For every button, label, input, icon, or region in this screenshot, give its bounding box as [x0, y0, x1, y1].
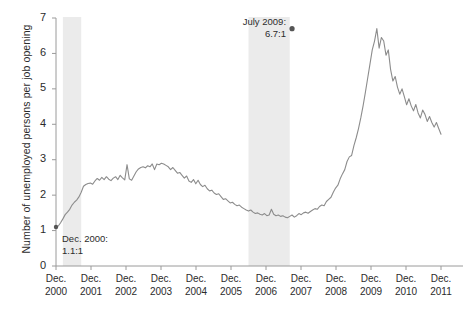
recession-band — [63, 17, 81, 266]
start-point-marker — [54, 225, 58, 229]
y-tick-label: 0 — [26, 259, 46, 271]
chart-container: Number of unemployed persons per job ope… — [0, 0, 468, 309]
x-tick-label: Dec.2011 — [419, 273, 463, 298]
y-tick-label: 2 — [26, 188, 46, 200]
start-point-annotation: Dec. 2000:1.1:1 — [62, 233, 108, 257]
recession-band — [249, 17, 290, 266]
chart-plot-area — [0, 0, 468, 309]
recession-bands — [63, 17, 290, 266]
annotation-line-2: 6.7:1 — [214, 28, 286, 40]
y-tick-label: 4 — [26, 117, 46, 129]
y-tick-label: 6 — [26, 46, 46, 58]
peak-point-marker — [289, 26, 294, 31]
x-tick-year: 2011 — [419, 286, 463, 299]
x-tick-month: Dec. — [419, 273, 463, 286]
peak-point-annotation: July 2009:6.7:1 — [214, 16, 286, 40]
annotation-line-1: July 2009: — [214, 16, 286, 28]
y-tick-label: 7 — [26, 11, 46, 23]
annotation-line-2: 1.1:1 — [62, 245, 108, 257]
annotation-line-1: Dec. 2000: — [62, 233, 108, 245]
y-tick-label: 5 — [26, 81, 46, 93]
y-tick-label: 3 — [26, 152, 46, 164]
y-tick-label: 1 — [26, 223, 46, 235]
